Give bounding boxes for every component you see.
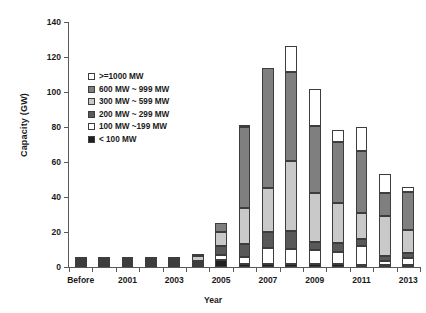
bar-segment: [239, 208, 251, 245]
x-axis-tick: [373, 267, 374, 272]
x-axis-tick-label: 2005: [212, 275, 231, 285]
y-axis-tick: [64, 162, 69, 163]
bar-2001: [122, 265, 134, 267]
bar-segment: [215, 260, 227, 267]
x-axis-tick: [163, 267, 164, 272]
bar-segment: [239, 127, 251, 207]
bar-segment: [215, 223, 227, 232]
bar-segment: [285, 249, 297, 265]
capacity-by-year-chart: Capacity (GW) Year 020406080100120140 Be…: [0, 0, 426, 313]
bar-segment: [285, 231, 297, 249]
bar-segment: [262, 68, 274, 189]
x-axis-title: Year: [0, 295, 426, 305]
y-axis-tick-label: 140: [47, 17, 61, 27]
bar-segment: [332, 142, 344, 203]
bar-segment: [332, 252, 344, 264]
bar-segment: [239, 264, 251, 268]
y-axis-tick-label: 20: [52, 227, 61, 237]
bar-segment: [309, 264, 321, 267]
bar-segment: [309, 250, 321, 264]
bar-segment: [332, 130, 344, 142]
x-axis-tick: [326, 267, 327, 272]
bar-segment: [215, 246, 227, 255]
x-axis-tick: [116, 267, 117, 272]
y-axis-tick: [64, 232, 69, 233]
bar-segment: [75, 265, 87, 267]
bar-segment: [379, 216, 391, 256]
plot-area: 020406080100120140 Before200120032005200…: [68, 22, 420, 268]
x-axis-tick: [280, 267, 281, 272]
bar-segment: [262, 232, 274, 248]
legend-swatch-icon: [88, 111, 95, 118]
bar-2003: [168, 258, 180, 267]
bar-segment: [309, 89, 321, 126]
bar-2002: [145, 265, 157, 267]
x-axis-tick-label: Before: [67, 275, 94, 285]
y-axis-tick-label: 80: [52, 122, 61, 132]
bar-segment: [285, 46, 297, 72]
bar-segment: [356, 127, 368, 151]
bar-2000: [98, 264, 110, 267]
bar-Before: [75, 258, 87, 267]
bar-segment: [262, 248, 274, 264]
bar-segment: [192, 265, 204, 267]
x-axis-tick-label: 2013: [399, 275, 418, 285]
x-axis-tick: [69, 267, 70, 272]
x-axis-tick: [186, 267, 187, 272]
bar-segment: [285, 161, 297, 231]
x-axis-tick: [209, 267, 210, 272]
y-axis-tick: [64, 197, 69, 198]
bar-segment: [145, 265, 157, 267]
bar-segment: [309, 242, 321, 251]
bar-segment: [122, 265, 134, 267]
y-axis-tick-label: 40: [52, 192, 61, 202]
y-axis-tick-label: 100: [47, 87, 61, 97]
bar-segment: [402, 265, 414, 267]
legend-swatch-icon: [88, 73, 95, 80]
bar-segment: [332, 243, 344, 252]
legend-item-label: >=1000 MW: [99, 72, 144, 81]
bar-segment: [239, 257, 251, 264]
x-axis-tick-label: 2001: [118, 275, 137, 285]
bar-2006: [239, 125, 251, 267]
legend-item-label: < 100 MW: [99, 135, 137, 144]
x-axis-tick: [350, 267, 351, 272]
y-axis-tick: [64, 22, 69, 23]
bar-segment: [309, 193, 321, 242]
legend-item: < 100 MW: [88, 135, 169, 144]
y-axis-tick-label: 60: [52, 157, 61, 167]
x-axis-tick: [303, 267, 304, 272]
y-axis-tick: [64, 127, 69, 128]
x-axis-tick: [139, 267, 140, 272]
x-axis-tick-label: 2009: [305, 275, 324, 285]
bar-2007: [262, 68, 274, 268]
bar-2008: [285, 46, 297, 267]
bar-segment: [98, 265, 110, 267]
bar-segment: [356, 246, 368, 265]
legend-item-label: 100 MW ~199 MW: [99, 122, 167, 131]
bar-segment: [285, 72, 297, 161]
bar-segment: [356, 151, 368, 212]
bar-segment: [168, 265, 180, 267]
bar-2012: [379, 174, 391, 267]
legend-swatch-icon: [88, 123, 95, 130]
x-axis-tick-label: 2003: [165, 275, 184, 285]
y-axis-title: Capacity (GW): [19, 65, 29, 185]
legend-item: >=1000 MW: [88, 72, 169, 81]
bar-segment: [356, 213, 368, 239]
legend-swatch-icon: [88, 136, 95, 143]
x-axis-tick-label: 2007: [258, 275, 277, 285]
bar-2009: [309, 89, 321, 267]
x-axis-tick: [420, 267, 421, 272]
bar-2011: [356, 127, 368, 267]
bar-segment: [309, 126, 321, 193]
legend-item: 600 MW ~ 999 MW: [88, 85, 169, 94]
bar-segment: [379, 174, 391, 193]
bar-segment: [332, 264, 344, 267]
y-axis-tick-label: 120: [47, 52, 61, 62]
legend-item-label: 600 MW ~ 999 MW: [99, 85, 169, 94]
bar-segment: [379, 193, 391, 216]
bar-2013: [402, 187, 414, 267]
legend-swatch-icon: [88, 98, 95, 105]
bar-2005: [215, 223, 227, 267]
